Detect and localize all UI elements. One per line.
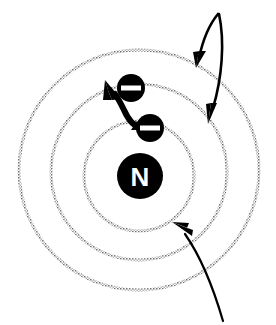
- nucleus-label: N: [131, 162, 150, 192]
- electron-inner: [136, 114, 164, 142]
- electron-outer-sign: [121, 86, 141, 91]
- electron-inner-sign: [140, 126, 160, 131]
- atom-diagram: N: [0, 0, 276, 325]
- electron-outer: [117, 74, 145, 102]
- atom-diagram-canvas: N: [0, 0, 276, 325]
- nucleus: N: [117, 153, 163, 199]
